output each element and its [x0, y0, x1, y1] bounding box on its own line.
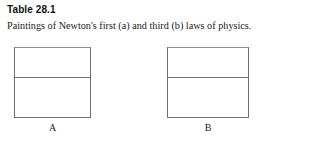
- panel-a-label: A: [14, 122, 91, 133]
- table-figure: Table 28.1 Paintings of Newton's first (…: [0, 0, 311, 143]
- table-number-label: Table 28.1: [7, 4, 56, 15]
- panel-group: A B: [0, 47, 311, 143]
- panel-b-box: [167, 47, 249, 118]
- panel-b: B: [167, 47, 249, 118]
- table-caption: Paintings of Newton's first (a) and thir…: [7, 20, 251, 31]
- panel-a-box: [14, 47, 91, 118]
- panel-a-cell-bottom: [15, 78, 90, 117]
- panel-b-label: B: [167, 122, 249, 133]
- panel-b-cell-bottom: [168, 78, 248, 117]
- panel-b-cell-top: [168, 48, 248, 78]
- panel-a: A: [14, 47, 91, 118]
- panel-a-cell-top: [15, 48, 90, 78]
